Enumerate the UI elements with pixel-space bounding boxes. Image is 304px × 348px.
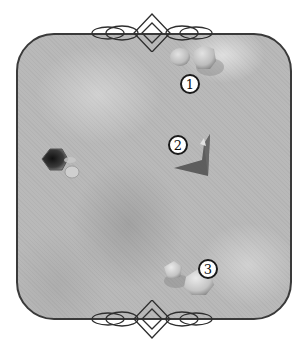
top-ornament-icon	[90, 12, 214, 52]
hexagonal-pit-icon	[36, 143, 86, 183]
bottom-ornament-icon	[90, 300, 214, 340]
marker-1: 1	[180, 74, 200, 94]
game-board: 1 2 3	[16, 33, 292, 320]
marker-3-label: 3	[204, 263, 212, 276]
marker-2: 2	[168, 135, 188, 155]
marker-1-label: 1	[186, 78, 194, 91]
marker-2-label: 2	[174, 139, 182, 152]
marker-3: 3	[198, 259, 218, 279]
